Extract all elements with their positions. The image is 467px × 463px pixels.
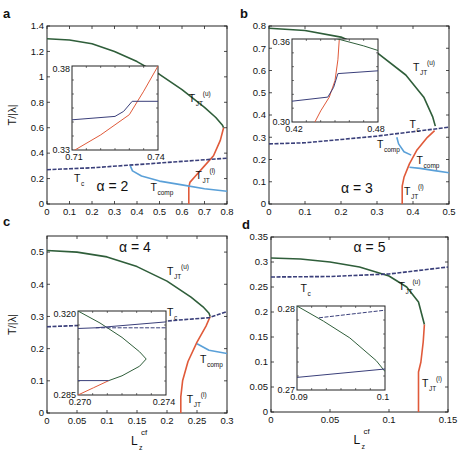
y-tick-label: 0.3	[255, 256, 268, 267]
curve-label-sub: JT	[420, 69, 427, 76]
curve-label-sub: JT	[405, 288, 412, 295]
curve-label-main: T	[409, 118, 416, 130]
y-tick-label: 0.2	[253, 154, 266, 165]
curve-label-main: T	[413, 61, 420, 73]
y-tick-label: 0.05	[250, 381, 269, 392]
curve-label-main: T	[167, 306, 174, 318]
curve-label-main: T	[398, 280, 405, 292]
curve-label-sub: comp	[207, 361, 223, 369]
x-axis-label-sup: cf	[141, 428, 148, 437]
curve-label-sub: comp	[384, 146, 400, 154]
y-tick-label: 0.4	[31, 147, 44, 158]
x-tick-label: 0.5	[153, 206, 166, 217]
inset-axes-frame	[78, 311, 166, 395]
curve-label-main: T	[151, 181, 158, 193]
x-tick-label: 0.4	[406, 206, 419, 217]
inset-xmax-label: 0.274	[153, 397, 176, 407]
x-tick-label: 0.15	[439, 414, 458, 425]
y-tick-label: 0.2	[31, 173, 44, 184]
curve-label-sup: (u)	[412, 278, 420, 286]
panel-a: a00.10.20.30.40.50.60.70.800.20.40.60.81…	[3, 6, 234, 217]
x-axis-label: Lzcf	[354, 427, 371, 450]
x-axis-label-sub: z	[139, 444, 143, 451]
inset-axes-frame	[297, 306, 385, 390]
inset-xmin-label: 0.09	[290, 392, 308, 402]
inset-ymax-label: 0.28	[277, 304, 295, 314]
x-tick-label: 0.25	[188, 415, 207, 426]
x-axis-label-main: L	[131, 434, 138, 448]
curve-label-sub: JT	[196, 100, 203, 107]
alpha-label: α = 5	[354, 239, 386, 255]
x-tick-label: 0.3	[370, 206, 383, 217]
curve-label-sup: (l)	[210, 167, 216, 175]
x-tick-label: 0.5	[442, 206, 455, 217]
x-tick-label: 0.3	[108, 206, 121, 217]
x-tick-label: 0.4	[130, 206, 143, 217]
x-tick-label: 0.1	[63, 206, 76, 217]
curve-label-sub: comp	[424, 162, 440, 170]
y-tick-label: 1.2	[31, 46, 44, 57]
y-tick-label: 0.15	[250, 331, 269, 342]
y-tick-label: 0.25	[250, 281, 269, 292]
y-tick-label: 0.6	[31, 122, 44, 133]
curve-label-sup: (u)	[427, 59, 435, 67]
inset-axes-frame	[72, 66, 158, 150]
x-tick-label: 0.05	[68, 415, 87, 426]
x-tick-label: 0.3	[220, 415, 233, 426]
curve-label-main: T	[189, 92, 196, 104]
y-axis-label: T/|λ|	[6, 314, 18, 335]
y-tick-label: 0.5	[31, 246, 44, 257]
x-tick-label: 0	[44, 206, 49, 217]
y-tick-label: 0.1	[253, 176, 266, 187]
curve-label-main: T	[187, 393, 194, 405]
y-tick-label: 0.5	[253, 87, 266, 98]
curve-label-main: T	[196, 169, 203, 181]
panel-letter: a	[3, 6, 11, 21]
y-tick-label: 0.2	[31, 343, 44, 354]
x-axis-label-sub: z	[362, 443, 366, 450]
x-tick-label: 0.1	[100, 415, 113, 426]
x-axis-label: Lzcf	[131, 428, 148, 451]
y-tick-label: 0.35	[250, 231, 269, 242]
y-tick-label: 0	[261, 198, 266, 209]
y-tick-label: 0	[39, 407, 44, 418]
curve-label-sub: JT	[429, 385, 436, 392]
curve-label-sub: comp	[158, 189, 174, 197]
curve-label-sup: (l)	[418, 183, 424, 191]
y-tick-label: 0.1	[31, 375, 44, 386]
curve-label-main: T	[417, 154, 424, 166]
y-tick-label: 0.6	[253, 65, 266, 76]
x-tick-label: 0.2	[85, 206, 98, 217]
x-tick-label: 0.05	[321, 414, 340, 425]
inset-ymax-label: 0.320	[53, 309, 76, 319]
curve-label-sub: JT	[411, 193, 418, 200]
curve-label-sup: (u)	[203, 90, 211, 98]
x-tick-label: 0.7	[198, 206, 211, 217]
inset-xmin-label: 0.71	[65, 152, 83, 162]
y-tick-label: 0.3	[31, 311, 44, 322]
inset-xmin-label: 0.270	[69, 397, 92, 407]
curve-label-sup: (u)	[181, 263, 189, 271]
y-tick-label: 1.4	[31, 20, 44, 31]
curve-label-main: T	[377, 138, 384, 150]
inset-xmin-label: 0.42	[285, 124, 303, 134]
curve-label-sub: JT	[203, 177, 210, 184]
x-axis-label-sup: cf	[364, 427, 371, 436]
curve-label-main: T	[74, 172, 81, 184]
curve-label-main: T	[422, 377, 429, 389]
alpha-label: α = 2	[97, 178, 129, 194]
y-tick-label: 1	[39, 71, 44, 82]
curve-label-sub: JT	[174, 273, 181, 280]
x-axis-label-main: L	[354, 433, 361, 447]
panel-c: c00.050.10.150.20.250.300.10.20.30.40.5T…	[3, 214, 234, 451]
y-tick-label: 0.8	[31, 97, 44, 108]
x-tick-label: 0.2	[334, 206, 347, 217]
alpha-label: α = 4	[119, 239, 151, 255]
curve-label-sup: (l)	[201, 391, 207, 399]
x-tick-label: 0.2	[160, 415, 173, 426]
curve-label-main: T	[167, 265, 174, 277]
panel-letter: d	[242, 217, 250, 232]
curve-label-main: T	[200, 353, 207, 365]
y-axis-label: T/|λ|	[6, 105, 18, 126]
y-tick-label: 0.3	[253, 132, 266, 143]
